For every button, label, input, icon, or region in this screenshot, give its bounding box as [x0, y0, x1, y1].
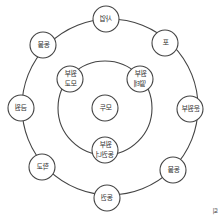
inner-node-bottom: 원부 동권너 [92, 137, 118, 163]
svg-text:모교: 모교 [64, 80, 77, 88]
svg-text:포: 포 [162, 39, 169, 47]
svg-text:떨테: 떨테 [134, 80, 146, 88]
outer-node-bottom-left: 학교 [29, 154, 55, 180]
svg-text:금원: 금원 [15, 103, 27, 112]
svg-text:원부: 원부 [134, 69, 147, 78]
svg-text:원부: 원부 [99, 140, 112, 149]
svg-text:사업: 사업 [100, 14, 112, 23]
svg-text:학교: 학교 [36, 162, 49, 171]
outer-node-right: 운원부 [177, 96, 203, 122]
outer-node-left: 금원 [8, 95, 34, 121]
center-node: 모두 [92, 95, 118, 121]
svg-text:원부: 원부 [64, 69, 77, 78]
outer-node-bottom-right: 동물 [160, 157, 186, 183]
svg-text:동물: 동물 [37, 41, 50, 49]
inner-node-top-left: 원부 모교 [57, 66, 83, 92]
corner-mark: 퇴 [212, 207, 218, 215]
outer-node-top-left: 동물 [30, 32, 56, 58]
svg-text:동물: 동물 [167, 166, 180, 174]
outer-node-top: 사업 [93, 6, 119, 32]
svg-text:모두: 모두 [99, 104, 112, 112]
svg-text:동권너: 동권너 [96, 150, 114, 159]
outer-node-bottom: 동권 [94, 185, 120, 211]
inner-node-top-right: 원부 떨테 [127, 66, 153, 92]
concentric-diagram: 모두 원부 모교 원부 떨테 원부 동권너 사업 포 운원부 동물 동권 학교 [0, 0, 221, 218]
svg-text:운원부: 운원부 [181, 104, 200, 113]
outer-node-top-right: 포 [152, 30, 178, 56]
svg-text:동권: 동권 [101, 194, 113, 202]
